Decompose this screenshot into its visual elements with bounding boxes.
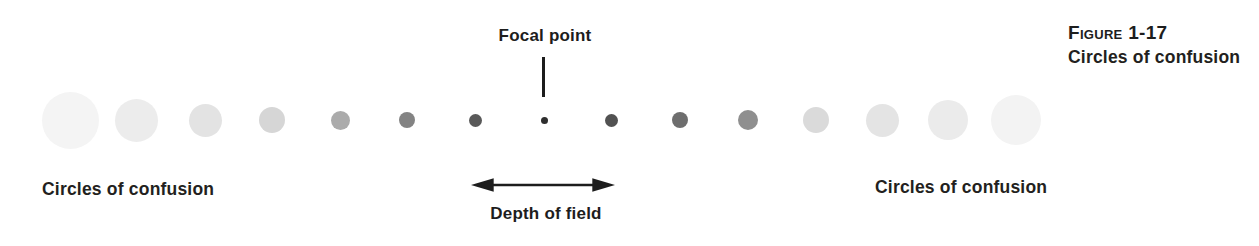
- arrowhead-right-icon: [592, 178, 615, 191]
- figure-caption-number: Figure 1-17: [1068, 20, 1240, 45]
- circle-of-confusion: [605, 114, 618, 127]
- focal-point-dot: [541, 117, 548, 124]
- arrowhead-left-icon: [471, 178, 494, 191]
- circle-of-confusion: [331, 111, 350, 130]
- circle-of-confusion: [259, 107, 285, 133]
- circle-of-confusion: [42, 92, 99, 149]
- circle-of-confusion: [399, 112, 415, 128]
- circle-of-confusion: [738, 110, 758, 130]
- depth-of-field-arrow: [471, 174, 615, 196]
- circles-of-confusion-label-left: Circles of confusion: [42, 179, 214, 200]
- circle-of-confusion: [866, 104, 899, 137]
- depth-of-field-label: Depth of field: [466, 204, 626, 224]
- figure-caption-title: Circles of confusion: [1068, 45, 1240, 70]
- circle-of-confusion: [115, 99, 158, 142]
- focal-point-pointer-line: [542, 57, 545, 97]
- figure-canvas: Focal point Circles of confusion Circles…: [0, 0, 1259, 246]
- circle-of-confusion: [803, 107, 829, 133]
- circle-of-confusion: [991, 95, 1041, 145]
- focal-point-label: Focal point: [460, 26, 630, 46]
- circle-of-confusion: [672, 112, 688, 128]
- circles-of-confusion-label-right: Circles of confusion: [875, 177, 1047, 198]
- circle-of-confusion: [928, 100, 968, 140]
- circle-of-confusion: [469, 114, 482, 127]
- circle-of-confusion: [189, 104, 222, 137]
- figure-caption: Figure 1-17 Circles of confusion: [1068, 20, 1240, 70]
